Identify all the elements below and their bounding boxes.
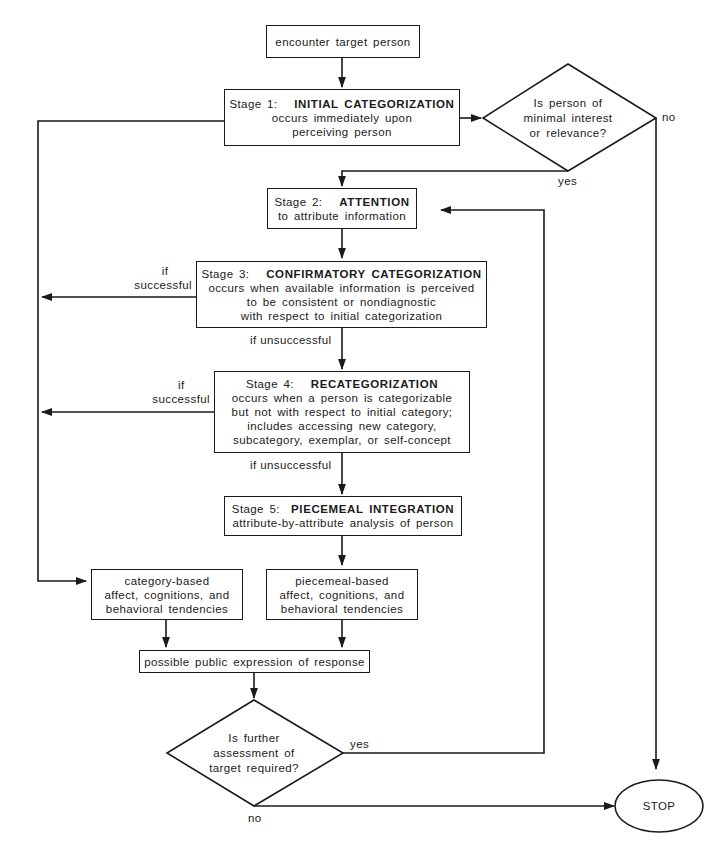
stage-heading: Stage 4: RECATEGORIZATION (246, 377, 438, 391)
decision2-yes-label: yes (350, 737, 369, 751)
node-text: piecemeal-based (295, 574, 389, 588)
label-line: successful (146, 392, 210, 406)
stage-number: Stage 3: (201, 268, 249, 280)
stage-description: to attribute information (278, 209, 406, 223)
node-text: behavioral tendencies (106, 602, 228, 616)
node-category-based-responses: category-based affect, cognitions, and b… (91, 569, 243, 620)
node-encounter-target-person: encounter target person (266, 25, 420, 58)
node-text: affect, cognitions, and (280, 588, 405, 602)
stage-heading: Stage 5: PIECEMEAL INTEGRATION (232, 502, 454, 516)
stage-description: but not with respect to initial category… (232, 405, 453, 419)
node-stage1-initial-categorization: Stage 1: INITIAL CATEGORIZATION occurs i… (224, 89, 460, 146)
stop-terminal-label: STOP (640, 799, 678, 813)
question-line: assessment of (194, 746, 314, 761)
stage-description: to be consistent or nondiagnostic (247, 295, 436, 309)
stage-name: ATTENTION (339, 196, 409, 208)
node-text: possible public expression of response (144, 655, 365, 669)
stage3-success-label: if successful (128, 264, 192, 292)
stage-description: attribute-by-attribute analysis of perso… (232, 516, 453, 530)
question-line: or relevance? (508, 126, 628, 141)
stage-heading: Stage 1: INITIAL CATEGORIZATION (229, 97, 454, 111)
label-line: successful (128, 278, 192, 292)
stage-name: CONFIRMATORY CATEGORIZATION (266, 268, 481, 280)
decision1-yes-label: yes (558, 174, 577, 188)
stage-description: perceiving person (292, 125, 392, 139)
node-stage2-attention: Stage 2: ATTENTION to attribute informat… (267, 188, 417, 229)
stage-name: INITIAL CATEGORIZATION (294, 98, 454, 110)
arrow-stage1-to-category-based (38, 121, 224, 581)
decision2-no-label: no (248, 811, 262, 825)
stage-number: Stage 4: (246, 378, 294, 390)
node-stage5-piecemeal-integration: Stage 5: PIECEMEAL INTEGRATION attribute… (224, 496, 462, 536)
node-stage3-confirmatory-categorization: Stage 3: CONFIRMATORY CATEGORIZATION occ… (196, 261, 487, 328)
stage4-success-label: if successful (146, 378, 210, 406)
decision1-question: Is person of minimal interest or relevan… (508, 96, 628, 141)
stage-number: Stage 2: (274, 196, 322, 208)
question-line: minimal interest (508, 111, 628, 126)
stage-heading: Stage 3: CONFIRMATORY CATEGORIZATION (201, 267, 481, 281)
node-stage4-recategorization: Stage 4: RECATEGORIZATION occurs when a … (214, 371, 470, 453)
decision1-no-label: no (662, 110, 676, 124)
stage-description: subcategory, exemplar, or self-concept (233, 433, 451, 447)
stage-number: Stage 1: (229, 98, 277, 110)
node-text: category-based (125, 574, 210, 588)
flowchart-diagram: encounter target person Stage 1: INITIAL… (0, 0, 726, 859)
node-piecemeal-based-responses: piecemeal-based affect, cognitions, and … (266, 569, 418, 620)
node-text: affect, cognitions, and (105, 588, 230, 602)
stage-description: includes accessing new category, (247, 419, 436, 433)
stage3-fail-label: if unsuccessful (250, 333, 331, 347)
arrow-decision1-yes-to-stage2 (342, 171, 568, 186)
question-line: Is person of (508, 96, 628, 111)
label-line: if (128, 264, 192, 278)
stage-number: Stage 5: (232, 503, 280, 515)
question-line: Is further (194, 731, 314, 746)
node-text: encounter target person (275, 35, 410, 49)
stage-name: PIECEMEAL INTEGRATION (291, 503, 454, 515)
stage-name: RECATEGORIZATION (311, 378, 438, 390)
node-public-expression-of-response: possible public expression of response (139, 650, 370, 673)
stage-description: occurs when a person is categorizable (232, 391, 452, 405)
question-line: target required? (194, 761, 314, 776)
stage-description: with respect to initial categorization (241, 309, 443, 323)
stage-description: occurs immediately upon (272, 111, 412, 125)
decision2-question: Is further assessment of target required… (194, 731, 314, 776)
node-text: behavioral tendencies (281, 602, 403, 616)
stage-description: occurs when available information is per… (208, 281, 474, 295)
label-line: if (146, 378, 210, 392)
stage-heading: Stage 2: ATTENTION (274, 195, 409, 209)
stage4-fail-label: if unsuccessful (250, 458, 331, 472)
